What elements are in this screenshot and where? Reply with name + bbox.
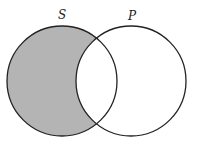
- label-s: S: [58, 8, 66, 22]
- label-p: P: [127, 9, 137, 23]
- venn-diagram: S P: [0, 0, 197, 145]
